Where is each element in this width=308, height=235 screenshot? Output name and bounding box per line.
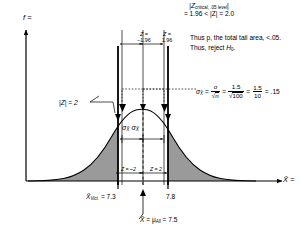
sigma-fraction-2: 1.5 √100 (228, 84, 244, 99)
normal-curve (28, 109, 256, 181)
sigma-frac2-num: 1.5 (231, 84, 242, 91)
sigma-eq-2: = (222, 88, 226, 95)
crit-close-bar: | (227, 2, 229, 9)
xbar-vict-subscript: Vict. (90, 196, 99, 201)
figure-canvas: |Zcritical, .05 level| = 1.96 < |Z| = 2.… (0, 0, 308, 235)
sigma-right-subscript: X̄ (136, 127, 139, 132)
y-axis-label: f = (23, 14, 32, 22)
standard-error-span-labels: σX̄ σX̄ (122, 124, 139, 132)
conclusion-line-1: Thus p, the total tail area, <.05. (190, 33, 281, 43)
sigma-frac2-radicand: 100 (232, 92, 243, 99)
abs-z-leader-stub (90, 96, 99, 102)
sigma-lhs: σX̄ (196, 88, 203, 96)
abs-z-leader-left (90, 102, 115, 113)
sigma-frac3-den: 10 (253, 91, 262, 99)
sigma-left-subscript: X̄ (126, 127, 129, 132)
x-axis-label: X̄ = (283, 176, 294, 184)
xbar-vict-value: = 7.3 (101, 193, 116, 200)
sigma-frac1-den: √n (211, 91, 220, 100)
z-obtained-negative-label: Z = –2 (121, 167, 136, 173)
sigma-formula-leader (143, 89, 196, 103)
sigma-eq-4: = (265, 88, 269, 95)
sigma-frac2-den: √100 (228, 91, 244, 100)
sigma-fraction-3: 1.5 10 (252, 85, 263, 99)
conclusion-period: . (234, 44, 236, 51)
sigma-eq-3: = (246, 88, 250, 95)
sigma-frac1-num: σ (213, 84, 219, 91)
xbar-center-equals-mu: = μ (146, 216, 155, 223)
standard-error-formula: σX̄ = σ √n = 1.5 √100 = 1.5 10 = .15 (196, 84, 280, 99)
mean-up-arrow (140, 189, 146, 196)
xbar-victims-label: X̄Vict. = 7.3 (86, 193, 116, 201)
conclusion-block: Thus p, the total tail area, <.05. Thus,… (190, 33, 281, 53)
left-tail-shading (18, 100, 118, 185)
mu-all-subscript: All (156, 219, 161, 224)
z-critical-positive-label: Z = 1.96 (157, 31, 177, 43)
xbar-center-symbol: X̄ (140, 216, 144, 223)
sigma-frac3-num: 1.5 (252, 85, 263, 92)
absolute-z-callout: |Z| = 2 (59, 99, 78, 106)
conclusion-reject-text: Thus, reject (190, 44, 226, 51)
sigma-fraction-1: σ √n (211, 84, 220, 99)
sigma-span-label-right: σX̄ (131, 124, 138, 132)
conclusion-line-2: Thus, reject H0. (190, 43, 281, 53)
sigma-frac1-radicand: n (215, 92, 219, 99)
z-pos196-line2: 1.96 (157, 37, 177, 43)
sigma-result: .15 (271, 88, 280, 95)
population-mean-label: X̄ = μAll = 7.5 (140, 216, 177, 224)
critical-value-block: |Zcritical, .05 level| = 1.96 < |Z| = 2.… (157, 2, 261, 17)
sigma-leader-right (143, 89, 164, 103)
sigma-eq-1: = (205, 88, 209, 95)
sigma-leader-left (122, 89, 143, 103)
right-tail-shading (168, 100, 268, 185)
z-obtained-positive-label: Z = 2 (150, 167, 162, 173)
xbar-center-value: = 7.5 (163, 216, 178, 223)
upper-bound-value-label: 7.8 (166, 193, 175, 200)
crit-comparison: = 1.96 < |Z| = 2.0 (157, 10, 261, 17)
sigma-span-label-left: σX̄ (122, 124, 129, 132)
z-neg196-line2: –1.96 (134, 37, 154, 43)
sigma-lhs-subscript: X̄ (200, 91, 203, 96)
z-critical-negative-label: Z = –1.96 (134, 31, 154, 43)
